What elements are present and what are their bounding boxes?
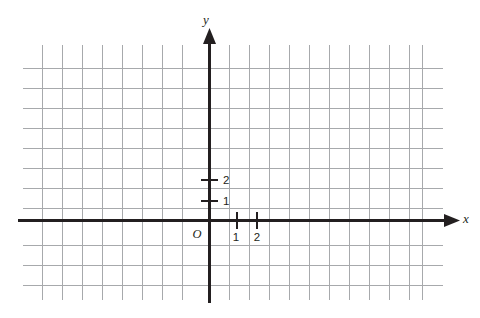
x-axis (18, 214, 460, 227)
y-tick-label-1: 1 (223, 195, 229, 207)
y-axis (203, 28, 216, 303)
x-tick-label-2: 2 (254, 231, 260, 243)
x-axis-arrowhead-icon (444, 214, 460, 227)
y-axis-label: y (201, 12, 209, 27)
origin-label: O (192, 227, 201, 241)
coordinate-grid-svg: y x O 1 2 1 2 (0, 0, 480, 318)
x-tick-label-1: 1 (233, 231, 239, 243)
vertical-gridlines (43, 45, 423, 300)
y-axis-arrowhead-icon (203, 28, 216, 44)
horizontal-gridlines (23, 69, 443, 286)
coordinate-plane-figure: y x O 1 2 1 2 (0, 0, 480, 318)
x-axis-label: x (462, 211, 469, 226)
y-tick-label-2: 2 (223, 174, 229, 186)
